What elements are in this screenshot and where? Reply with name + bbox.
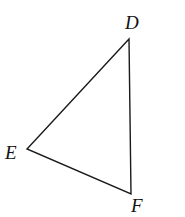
vertex-label-d: D — [124, 12, 139, 33]
vertex-label-e: E — [4, 142, 17, 163]
triangle-diagram: D E F — [0, 0, 185, 217]
triangle-def — [27, 39, 131, 194]
vertex-label-f: F — [130, 195, 143, 216]
